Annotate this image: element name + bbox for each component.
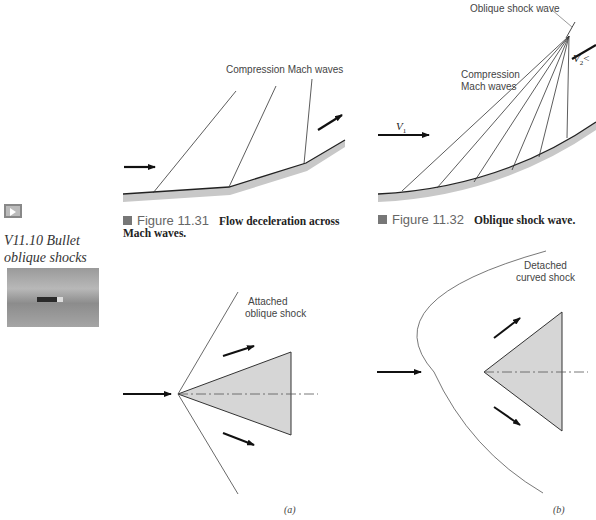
label-line2: curved shock — [516, 272, 575, 284]
mach-wave — [474, 36, 569, 182]
arrow-icon — [318, 115, 342, 130]
video-thumbnail[interactable] — [7, 268, 99, 327]
wedge — [484, 312, 562, 431]
v1-label: V1 — [396, 120, 406, 135]
subfigure-b-label: (b) — [553, 504, 565, 515]
figure-a-drawing — [123, 292, 318, 494]
caption-text: Oblique shock wave. — [474, 214, 575, 226]
arrow-icon — [494, 407, 520, 425]
detached-curved-shock-label: Detached curved shock — [516, 260, 575, 284]
video-title-line1: V11.10 Bullet — [4, 232, 87, 249]
figure-11-32-drawing — [378, 10, 596, 202]
arrow-icon — [223, 346, 254, 356]
arrow-icon — [223, 433, 254, 445]
mach-wave-1 — [153, 91, 236, 193]
caption-number: Figure 11.31 — [137, 213, 209, 228]
figure-11-31-drawing — [123, 79, 345, 202]
label-line1: Detached — [516, 260, 575, 272]
compression-mach-waves-label: Compression Mach waves — [226, 64, 343, 76]
label-line2: oblique shock — [245, 308, 306, 320]
subfigure-a-label: (a) — [284, 504, 296, 515]
wall-surface — [123, 140, 345, 202]
arrow-icon — [494, 318, 520, 338]
play-button-icon[interactable] — [4, 204, 22, 218]
mach-wave — [437, 36, 569, 188]
label-line2: Mach waves — [461, 81, 520, 93]
compression-mach-waves-label: Compression Mach waves — [461, 69, 520, 93]
label-line1: Compression — [461, 69, 520, 81]
oblique-shock-wave-label: Oblique shock wave — [470, 3, 560, 15]
caption-square-icon — [378, 215, 387, 224]
caption-text-line2: Mach waves. — [123, 227, 186, 239]
mach-wave-2 — [229, 86, 276, 187]
mach-wave — [402, 36, 569, 191]
caption-text: Flow deceleration across — [219, 215, 340, 227]
label-line1: Attached — [245, 296, 306, 308]
video-title[interactable]: V11.10 Bullet oblique shocks — [4, 232, 87, 266]
mach-wave — [567, 36, 569, 138]
caption-number: Figure 11.32 — [392, 212, 464, 227]
oblique-shock-line — [566, 22, 575, 38]
v2-label: V2< — [573, 52, 589, 67]
video-title-line2: oblique shocks — [4, 249, 87, 266]
figure-11-32-caption: Figure 11.32 Oblique shock wave. — [378, 210, 575, 228]
attached-oblique-shock-label: Attached oblique shock — [245, 296, 306, 320]
caption-square-icon — [123, 216, 132, 225]
figure-b-drawing — [377, 251, 588, 493]
mach-wave-3 — [304, 79, 312, 164]
